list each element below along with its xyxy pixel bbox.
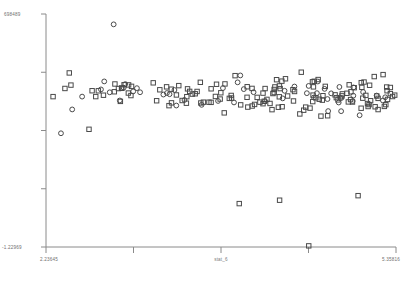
data-point-square (90, 89, 94, 93)
axis-labels: 698489-1.229692.236455.35816stat_6 (2, 12, 400, 262)
data-point-circle (339, 109, 344, 114)
data-point-square (154, 99, 158, 103)
y-axis-top-label: 698489 (4, 12, 21, 17)
data-point-square (67, 71, 71, 75)
data-point-square (285, 94, 289, 98)
data-point-square (129, 84, 133, 88)
chart-canvas: 698489-1.229692.236455.35816stat_6 (0, 0, 406, 289)
data-point-circle (235, 80, 240, 85)
data-point-circle (306, 84, 311, 89)
data-point-square (372, 74, 376, 78)
data-point-circle (238, 73, 243, 78)
data-point-square (87, 127, 91, 131)
data-point-circle (282, 88, 287, 93)
data-point-square (361, 96, 365, 100)
data-point-square (299, 70, 303, 74)
data-point-square (261, 91, 265, 95)
data-point-circle (102, 79, 107, 84)
data-point-square (325, 114, 329, 118)
x-axis-title: stat_6 (214, 257, 228, 262)
data-point-square (245, 95, 249, 99)
data-point-circle (107, 90, 112, 95)
data-point-square (219, 91, 223, 95)
axes (41, 14, 396, 253)
data-point-square (381, 72, 385, 76)
data-point-square (101, 93, 105, 97)
data-point-square (360, 85, 364, 89)
data-point-square (373, 105, 377, 109)
data-point-square (270, 107, 274, 111)
data-point-square (319, 114, 323, 118)
x-axis-left-label: 2.23645 (40, 257, 58, 262)
data-point-square (222, 111, 226, 115)
data-point-square (356, 193, 360, 197)
data-point-square (69, 83, 73, 87)
data-point-circle (80, 94, 85, 99)
data-point-square (311, 85, 315, 89)
data-point-square (63, 86, 67, 90)
data-point-circle (174, 103, 179, 108)
data-point-circle (337, 85, 342, 90)
data-point-circle (304, 91, 309, 96)
data-point-square (214, 82, 218, 86)
data-point-circle (138, 90, 143, 95)
data-point-circle (325, 97, 330, 102)
data-point-square (376, 107, 380, 111)
data-point-circle (361, 90, 366, 95)
data-point-square (177, 83, 181, 87)
data-point-square (238, 103, 242, 107)
data-point-square (291, 99, 295, 103)
data-point-square (198, 80, 202, 84)
data-point-square (237, 201, 241, 205)
data-point-square (158, 88, 162, 92)
data-point-square (308, 106, 312, 110)
data-point-circle (111, 22, 116, 27)
data-point-circle (357, 113, 362, 118)
data-point-square (113, 82, 117, 86)
data-points (51, 22, 397, 248)
data-point-circle (232, 100, 237, 105)
data-point-circle (326, 109, 331, 114)
data-point-square (347, 83, 351, 87)
x-axis-right-label: 5.35816 (382, 257, 400, 262)
data-point-square (263, 86, 267, 90)
data-point-square (246, 105, 250, 109)
scatter-plot-figure: 698489-1.229692.236455.35816stat_6 (0, 0, 406, 289)
data-point-circle (70, 107, 75, 112)
data-point-square (94, 94, 98, 98)
data-point-square (213, 94, 217, 98)
data-point-circle (292, 84, 297, 89)
data-point-circle (59, 131, 64, 136)
data-point-square (174, 93, 178, 97)
data-point-square (258, 100, 262, 104)
data-point-square (255, 95, 259, 99)
y-axis-bottom-label: -1.22969 (2, 245, 22, 250)
data-point-square (164, 85, 168, 89)
data-point-square (233, 73, 237, 77)
data-point-square (277, 198, 281, 202)
data-point-square (51, 94, 55, 98)
data-point-square (359, 106, 363, 110)
data-point-square (209, 87, 213, 91)
data-point-square (274, 78, 278, 82)
data-point-square (151, 81, 155, 85)
data-point-square (367, 83, 371, 87)
